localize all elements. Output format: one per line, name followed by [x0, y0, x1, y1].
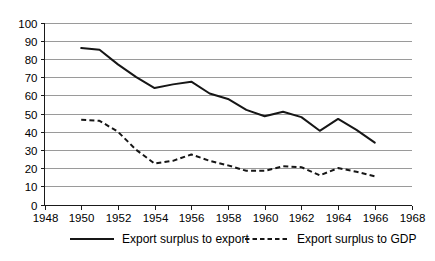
- y-tick-label-30: 30: [25, 145, 38, 157]
- chart-legend: Export surplus to exportExport surplus t…: [70, 232, 416, 246]
- x-tick-label-1964: 1964: [326, 212, 352, 224]
- x-axis-tick-labels: 1948195019521954195619581960196219641966…: [33, 212, 426, 224]
- x-tick-label-1966: 1966: [363, 212, 389, 224]
- legend-label-1: Export surplus to export: [122, 232, 249, 246]
- y-tick-label-60: 60: [25, 90, 38, 102]
- x-tick-label-1968: 1968: [400, 212, 426, 224]
- x-tick-label-1950: 1950: [69, 212, 95, 224]
- chart-container: 0102030405060708090100 19481950195219541…: [0, 0, 435, 261]
- x-tick-label-1962: 1962: [289, 212, 315, 224]
- x-tick-label-1958: 1958: [216, 212, 242, 224]
- y-tick-label-100: 100: [18, 18, 37, 30]
- y-tick-label-50: 50: [25, 109, 38, 121]
- y-tick-label-40: 40: [25, 127, 38, 139]
- y-tick-label-70: 70: [25, 72, 38, 84]
- x-tick-label-1954: 1954: [143, 212, 169, 224]
- y-tick-label-0: 0: [31, 200, 37, 212]
- x-tick-label-1952: 1952: [106, 212, 132, 224]
- line-chart: 0102030405060708090100 19481950195219541…: [0, 0, 435, 261]
- legend-label-2: Export surplus to GDP: [297, 232, 416, 246]
- y-tick-label-10: 10: [25, 181, 38, 193]
- y-tick-label-90: 90: [25, 36, 38, 48]
- x-tick-label-1956: 1956: [179, 212, 205, 224]
- x-tick-label-1948: 1948: [33, 212, 59, 224]
- y-tick-label-20: 20: [25, 163, 38, 175]
- y-tick-label-80: 80: [25, 54, 38, 66]
- x-tick-label-1960: 1960: [253, 212, 279, 224]
